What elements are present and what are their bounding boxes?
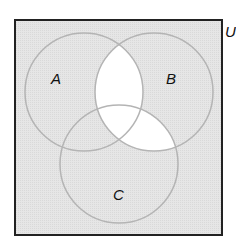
label-universe: U	[225, 23, 236, 40]
label-set-b: B	[166, 70, 176, 87]
label-set-a: A	[50, 70, 61, 87]
venn-diagram: A B C U	[0, 0, 236, 238]
label-set-c: C	[113, 186, 124, 203]
